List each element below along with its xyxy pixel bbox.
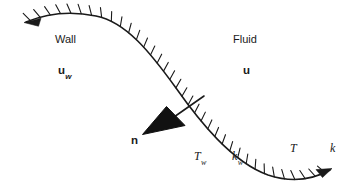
fluid-velocity-label: u bbox=[243, 65, 250, 77]
wall-conductivity-label: kw bbox=[232, 150, 243, 165]
hatch-mark bbox=[144, 38, 148, 47]
hatch-mark bbox=[129, 23, 132, 33]
hatch-mark bbox=[120, 17, 122, 27]
hatch-mark bbox=[222, 135, 225, 144]
hatch-mark bbox=[300, 170, 305, 178]
hatch-mark bbox=[273, 167, 275, 177]
fluid-conductivity-label: k bbox=[330, 142, 335, 154]
wall-temperature-symbol: T bbox=[194, 149, 201, 163]
hatch-mark bbox=[170, 71, 175, 80]
hatch-mark bbox=[282, 169, 285, 178]
hatch-mark bbox=[215, 127, 219, 136]
wall-velocity-label: uw bbox=[58, 65, 71, 79]
diagram-canvas: Wall uw Fluid u n Tw kw T k bbox=[0, 0, 349, 193]
hatch-mark bbox=[136, 30, 139, 39]
hatch-mark bbox=[100, 8, 101, 18]
hatch-mark bbox=[78, 4, 81, 13]
hatch-mark bbox=[89, 6, 91, 16]
hatch-mark bbox=[56, 5, 61, 14]
hatch-mark bbox=[309, 169, 316, 176]
normal-vector-label: n bbox=[131, 135, 138, 147]
hatch-mark bbox=[151, 46, 155, 55]
wall-region-label: Wall bbox=[55, 34, 76, 45]
hatch-mark bbox=[246, 154, 248, 164]
hatch-mark bbox=[201, 112, 205, 121]
normal-vector-arrowhead-icon bbox=[143, 107, 186, 135]
hatch-mark bbox=[208, 120, 212, 129]
hatch-mark bbox=[67, 4, 71, 13]
hatch-mark bbox=[157, 54, 162, 63]
wall-conductivity-subscript: w bbox=[238, 158, 243, 167]
fluid-region-label: Fluid bbox=[233, 34, 257, 45]
hatch-mark bbox=[23, 13, 30, 20]
wall-temperature-label: Tw bbox=[194, 150, 206, 165]
hatch-mark bbox=[34, 10, 40, 18]
hatch-mark bbox=[45, 7, 51, 15]
hatch-mark bbox=[291, 171, 295, 180]
wall-temperature-subscript: w bbox=[201, 158, 206, 167]
wall-velocity-symbol: u bbox=[58, 64, 65, 76]
wall-velocity-subscript: w bbox=[65, 72, 71, 81]
curve-right-arrow-icon bbox=[316, 169, 332, 178]
hatch-mark bbox=[194, 104, 199, 113]
hatch-mark bbox=[182, 88, 187, 97]
hatch-mark bbox=[176, 79, 181, 88]
hatching-group bbox=[23, 4, 325, 180]
hatch-mark bbox=[255, 159, 256, 169]
wall-conductivity-symbol: k bbox=[232, 149, 237, 163]
fluid-temperature-label: T bbox=[290, 142, 297, 154]
hatch-mark bbox=[164, 62, 169, 71]
interface-drawing bbox=[0, 0, 349, 193]
